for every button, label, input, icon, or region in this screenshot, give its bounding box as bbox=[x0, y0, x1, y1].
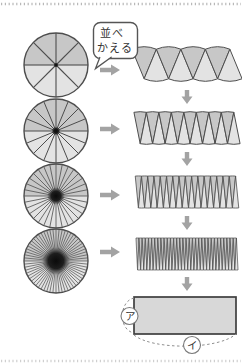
rearranged-strip-64-sectors bbox=[136, 238, 238, 270]
rearranged-strip-32-sectors bbox=[135, 176, 239, 208]
final-rectangle bbox=[134, 297, 236, 334]
down-arrow-icon bbox=[182, 90, 193, 104]
circle-rearrangement-diagram: 並べ かえる ア イ bbox=[0, 0, 242, 363]
final-rectangle-group: ア イ bbox=[121, 297, 236, 354]
down-arrow-icon bbox=[182, 216, 193, 230]
label-width: イ bbox=[187, 339, 197, 351]
down-arrow-icon bbox=[182, 152, 193, 166]
down-arrow-icon bbox=[182, 277, 193, 291]
label-height: ア bbox=[125, 310, 135, 322]
circle-8-sectors bbox=[24, 33, 88, 97]
circle-32-sectors bbox=[24, 164, 88, 228]
worksheet-figure: 並べ かえる ア イ bbox=[0, 0, 242, 363]
rearranged-strip-8-sectors bbox=[132, 47, 242, 81]
right-arrow-icon bbox=[100, 190, 120, 201]
speech-bubble: 並べ かえる bbox=[94, 23, 138, 70]
bubble-text-line2: かえる bbox=[97, 42, 133, 54]
bubble-text-line1: 並べ bbox=[100, 26, 124, 39]
circle-16-sectors bbox=[24, 99, 88, 163]
generated-diagram bbox=[24, 33, 242, 293]
right-arrow-icon bbox=[100, 65, 120, 76]
right-arrow-icon bbox=[100, 124, 120, 135]
rearranged-strip-16-sectors bbox=[134, 112, 240, 145]
circle-64-sectors bbox=[24, 229, 88, 293]
right-arrow-icon bbox=[100, 247, 120, 258]
